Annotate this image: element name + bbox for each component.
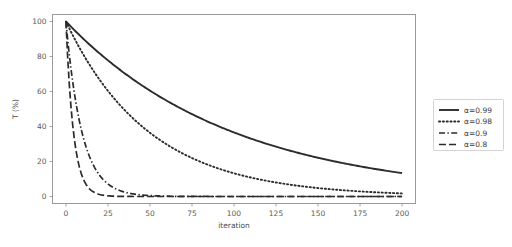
chart-legend: α=0.99α=0.98α=0.9α=0.8 [434,100,504,151]
y-tick-label: 0 [42,192,47,201]
data-series-group [66,22,402,197]
series-line-0.98 [66,22,402,194]
y-tick-label: 40 [37,122,47,131]
x-tick-label: 100 [227,209,242,218]
x-tick-label: 150 [311,209,326,218]
series-line-0.8 [66,22,402,197]
x-tick-label: 0 [64,209,69,218]
y-tick-label: 60 [37,87,47,96]
y-tick-label: 20 [37,157,47,166]
x-axis-tick-labels: 0255075100125150175200 [64,209,410,218]
y-tick-label: 80 [37,52,47,61]
x-tick-label: 25 [103,209,113,218]
series-line-0.99 [66,22,402,174]
y-axis-label: T (%) [11,99,20,120]
series-line-0.9 [66,22,402,197]
y-axis-tick-labels: 020406080100 [32,17,47,201]
legend-label: α=0.99 [464,106,492,115]
legend-label: α=0.98 [464,117,492,126]
x-tick-label: 200 [395,209,410,218]
legend-label: α=0.8 [464,140,487,149]
temperature-decay-chart: 0255075100125150175200 020406080100 iter… [0,0,512,247]
plot-frame [53,15,416,204]
x-tick-label: 125 [269,209,284,218]
chart-figure: 0255075100125150175200 020406080100 iter… [0,0,512,247]
legend-label: α=0.9 [464,129,487,138]
x-tick-label: 175 [353,209,368,218]
x-tick-label: 50 [145,209,155,218]
x-tick-label: 75 [187,209,197,218]
x-axis-label: iteration [218,221,250,230]
y-tick-label: 100 [32,17,47,26]
